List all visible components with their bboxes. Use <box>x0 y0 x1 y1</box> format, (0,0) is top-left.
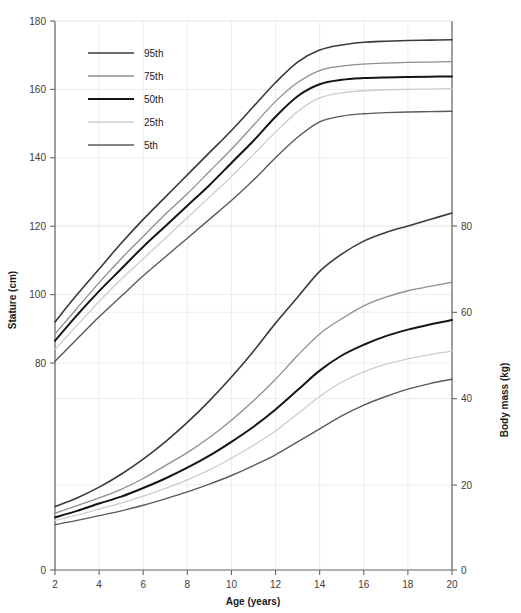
y-tick-label-right: 40 <box>461 393 473 404</box>
y-axis-right-title: Body mass (kg) <box>499 363 510 437</box>
y-axis-left-title: Stature (cm) <box>7 271 18 329</box>
y-tick-label-left: 100 <box>29 289 46 300</box>
legend-label-25th: 25th <box>144 117 163 128</box>
x-tick-label: 2 <box>52 579 58 590</box>
y-tick-label-right: 0 <box>461 565 467 576</box>
y-tick-label-left: 120 <box>29 221 46 232</box>
x-tick-label: 6 <box>140 579 146 590</box>
y-tick-label-left: 80 <box>35 358 47 369</box>
y-tick-label-right: 60 <box>461 307 473 318</box>
y-tick-label-left: 160 <box>29 84 46 95</box>
x-tick-label: 18 <box>402 579 414 590</box>
x-tick-label: 10 <box>226 579 238 590</box>
legend-label-50th: 50th <box>144 94 163 105</box>
legend-label-95th: 95th <box>144 48 163 59</box>
y-tick-label-left: 0 <box>40 565 46 576</box>
y-tick-label-right: 20 <box>461 480 473 491</box>
y-tick-label-right: 80 <box>461 221 473 232</box>
x-tick-label: 4 <box>96 579 102 590</box>
chart-canvas: 2468101214161820080100120140160180020406… <box>0 0 521 613</box>
legend-label-75th: 75th <box>144 71 163 82</box>
x-tick-label: 14 <box>314 579 326 590</box>
x-axis-title: Age (years) <box>226 596 280 607</box>
legend-label-5th: 5th <box>144 140 158 151</box>
y-tick-label-left: 180 <box>29 16 46 27</box>
x-tick-label: 12 <box>270 579 282 590</box>
x-tick-label: 20 <box>446 579 458 590</box>
growth-chart: 2468101214161820080100120140160180020406… <box>0 0 521 613</box>
x-tick-label: 8 <box>185 579 191 590</box>
x-tick-label: 16 <box>358 579 370 590</box>
y-tick-label-left: 140 <box>29 152 46 163</box>
